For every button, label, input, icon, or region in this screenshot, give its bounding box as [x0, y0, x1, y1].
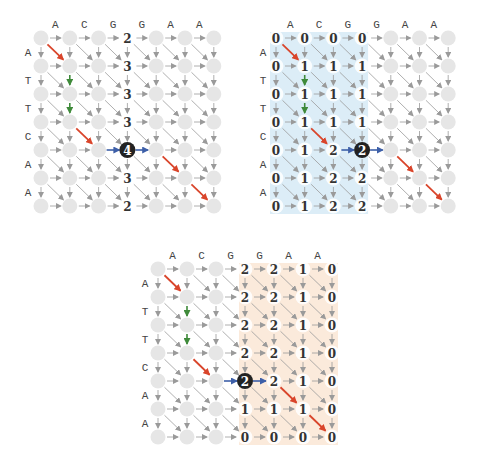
diagonal-edge-arrow: [105, 100, 121, 115]
row-letter: T: [25, 103, 32, 115]
diagonal-edge-arrow: [164, 303, 180, 318]
grid-node: [383, 171, 398, 186]
grid-node: [441, 171, 456, 186]
row-letter: T: [142, 334, 149, 346]
grid-node: [180, 346, 195, 361]
grid-node: [34, 143, 49, 158]
grid-node: [62, 31, 77, 46]
node-score: 0: [272, 32, 280, 46]
grid-node: [383, 31, 398, 46]
diagonal-edge-arrow: [76, 100, 92, 115]
diagonal-edge-arrow: [193, 387, 209, 402]
grid-node: [412, 115, 427, 130]
grid-node: [91, 171, 106, 186]
diagonal-edge-arrow: [47, 184, 63, 199]
grid-node: [91, 143, 106, 158]
node-score: 2: [270, 319, 278, 333]
grid-node: [206, 171, 221, 186]
node-score: 0: [328, 431, 336, 445]
column-letter: G: [138, 19, 145, 31]
grid-node: [149, 31, 164, 46]
node-score: 0: [241, 431, 249, 445]
diagonal-edge-arrow: [369, 156, 385, 171]
node-score: 1: [299, 263, 307, 277]
row-letter: T: [25, 75, 32, 87]
grid-node: [180, 290, 195, 305]
diagonal-edge-arrow: [76, 44, 92, 59]
grid-node: [149, 59, 164, 74]
grid-node: [34, 87, 49, 102]
column-letter: G: [110, 19, 117, 31]
red-diagonal-arrow: [76, 128, 92, 143]
middle-node-value: 2: [358, 144, 366, 158]
node-score: 0: [328, 263, 336, 277]
column-letter: C: [198, 250, 205, 262]
grid-node: [206, 115, 221, 130]
diagonal-edge-arrow: [47, 72, 63, 87]
node-score: 2: [241, 347, 249, 361]
grid-node: [383, 59, 398, 74]
row-letter: A: [25, 47, 32, 59]
panel-forward-half: ACGGAAATTCAA0000011101110111012201220122: [260, 19, 456, 214]
panel-backward-half: ACGGAAATTCAA2210221022102210221011100000: [142, 250, 340, 445]
column-letter: G: [344, 19, 351, 31]
grid-node: [206, 87, 221, 102]
diagonal-edge-arrow: [426, 128, 442, 143]
diagonal-edge-arrow: [222, 415, 238, 430]
grid-node: [412, 199, 427, 214]
diagonal-edge-arrow: [191, 156, 207, 171]
diagonal-edge-arrow: [47, 156, 63, 171]
red-diagonal-arrow: [426, 184, 442, 199]
node-score: 1: [301, 200, 309, 214]
row-letter: A: [142, 390, 149, 402]
node-score: 0: [328, 375, 336, 389]
diagonal-edge-arrow: [134, 44, 150, 59]
column-letter: A: [169, 250, 176, 262]
node-score: 0: [328, 347, 336, 361]
diagonal-edge-arrow: [426, 156, 442, 171]
grid-node: [34, 59, 49, 74]
column-letter: C: [316, 19, 323, 31]
diagonal-edge-arrow: [134, 100, 150, 115]
node-score: 2: [270, 375, 278, 389]
grid-node: [441, 143, 456, 158]
node-score: 1: [301, 144, 309, 158]
diagonal-edge-arrow: [164, 331, 180, 346]
row-letter: A: [260, 47, 267, 59]
diagonal-edge-arrow: [47, 100, 63, 115]
node-score: 0: [272, 144, 280, 158]
node-score: 3: [123, 172, 131, 186]
diagonal-edge-arrow: [164, 359, 180, 374]
diagonal-edge-arrow: [397, 44, 413, 59]
diagonal-edge-arrow: [163, 72, 179, 87]
diagonal-edge-arrow: [369, 44, 385, 59]
grid-node: [151, 374, 166, 389]
column-letter: A: [167, 19, 174, 31]
node-score: 2: [241, 319, 249, 333]
node-score: 1: [358, 88, 366, 102]
grid-node: [412, 143, 427, 158]
node-score: 3: [123, 60, 131, 74]
diagonal-edge-arrow: [193, 303, 209, 318]
node-score: 0: [270, 431, 278, 445]
column-letter: G: [256, 250, 263, 262]
node-score: 3: [123, 88, 131, 102]
grid-node: [441, 115, 456, 130]
node-score: 3: [123, 116, 131, 130]
grid-node: [62, 59, 77, 74]
diagonal-edge-arrow: [369, 100, 385, 115]
node-score: 0: [272, 88, 280, 102]
diagonal-edge-arrow: [163, 100, 179, 115]
grid-node: [206, 199, 221, 214]
node-score: 1: [299, 375, 307, 389]
node-score: 1: [301, 88, 309, 102]
grid-node: [209, 374, 224, 389]
grid-node: [178, 199, 193, 214]
diagonal-edge-arrow: [193, 415, 209, 430]
grid-node: [91, 31, 106, 46]
red-diagonal-arrow: [163, 156, 179, 171]
grid-node: [412, 31, 427, 46]
grid-node: [206, 143, 221, 158]
grid-node: [62, 87, 77, 102]
grid-node: [412, 87, 427, 102]
